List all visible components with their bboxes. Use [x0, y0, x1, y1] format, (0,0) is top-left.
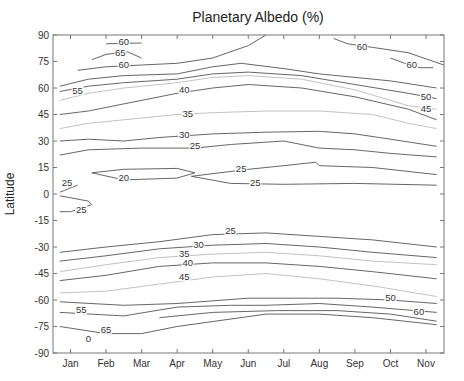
contour-label: 55: [72, 85, 83, 96]
contour-line-35: [60, 252, 437, 271]
y-tick-label: -60: [35, 295, 50, 306]
contour-label: 40: [183, 257, 194, 268]
x-tick-label: Nov: [417, 358, 435, 369]
y-tick-label: 90: [38, 30, 50, 41]
contour-label: 30: [179, 129, 190, 140]
contour-label: 45: [421, 103, 432, 114]
y-tick-label: 75: [38, 56, 50, 67]
x-tick-label: Jan: [62, 358, 78, 369]
contour-label: 40: [179, 84, 190, 95]
contour-line-65: [60, 314, 437, 334]
y-tick-label: -75: [35, 321, 50, 332]
contour-label: 60: [119, 36, 130, 47]
contour-line-50: [60, 298, 437, 305]
contour-line-40: [60, 85, 437, 120]
contour-label: 55: [76, 304, 87, 315]
y-tick-label: 15: [38, 162, 50, 173]
chart-title: Planetary Albedo (%): [192, 9, 324, 25]
contour-label: 25: [236, 163, 247, 174]
contour-line-30: [60, 131, 437, 146]
y-tick-label: -90: [35, 348, 50, 359]
contour-label: 25: [76, 204, 87, 215]
y-tick-label: 45: [38, 109, 50, 120]
contour-label: 60: [119, 59, 130, 70]
y-tick-label: 30: [38, 136, 50, 147]
contour-label: 45: [179, 271, 190, 282]
contour-line-25: [60, 141, 437, 157]
x-tick-label: May: [203, 358, 222, 369]
contour-label: 50: [385, 292, 396, 303]
contour-label: 20: [119, 172, 130, 183]
annotation-label: 0: [86, 333, 91, 344]
x-axis: JanFebMarAprMayJunJulAugSepOctNov: [62, 35, 434, 369]
contour-line-55: [60, 304, 437, 316]
contour-label: 25: [62, 177, 73, 188]
contour-line-25: [191, 176, 436, 185]
contour-line-60: [159, 311, 436, 322]
x-tick-label: Aug: [310, 358, 328, 369]
contour-line-60: [334, 39, 444, 66]
contour-line-40: [60, 263, 437, 281]
contour-label: 30: [193, 239, 204, 250]
y-tick-label: 60: [38, 83, 50, 94]
contour-line-45: [60, 76, 437, 110]
x-tick-label: Oct: [383, 358, 399, 369]
contour-label: 65: [115, 47, 126, 58]
contour-line-60: [78, 35, 266, 70]
y-tick-label: 0: [43, 189, 49, 200]
y-tick-label: -45: [35, 268, 50, 279]
contour-line-25: [191, 162, 436, 176]
contour-label: 25: [225, 225, 236, 236]
contour-label: 60: [406, 59, 417, 70]
contour-label: 35: [183, 108, 194, 119]
contour-label: 65: [101, 324, 112, 335]
contour-line-20: [92, 168, 195, 180]
contour-chart: Planetary Albedo (%) 6560606060555045403…: [0, 0, 464, 381]
contour-label: 60: [357, 41, 368, 52]
contour-label: 50: [421, 91, 432, 102]
contour-label: 25: [250, 177, 261, 188]
x-tick-label: Mar: [133, 358, 151, 369]
contour-line-45: [60, 274, 437, 297]
contour-line-35: [60, 111, 437, 129]
x-tick-label: Jun: [240, 358, 256, 369]
contour-label: 60: [414, 306, 425, 317]
x-tick-label: Sep: [346, 358, 364, 369]
contour-line-25: [60, 233, 437, 252]
y-tick-label: -15: [35, 215, 50, 226]
x-tick-label: Apr: [169, 358, 185, 369]
x-tick-label: Feb: [97, 358, 115, 369]
y-axis-label: Latitude: [3, 172, 17, 215]
x-tick-label: Jul: [277, 358, 290, 369]
y-tick-label: -30: [35, 242, 50, 253]
contour-label: 25: [190, 140, 201, 151]
